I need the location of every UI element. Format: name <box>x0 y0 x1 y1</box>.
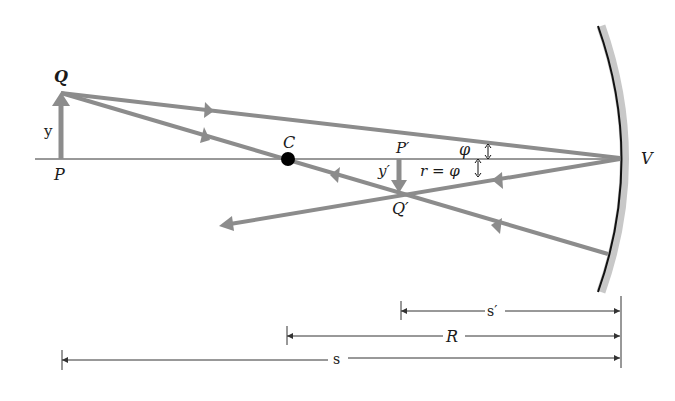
label-c: C <box>283 133 295 152</box>
label-p: P <box>53 165 65 184</box>
dimension-r: R <box>287 326 620 346</box>
label-s: s <box>333 351 340 367</box>
label-v: V <box>641 149 654 168</box>
label-q: Q <box>54 67 68 86</box>
label-r: R <box>445 327 458 346</box>
angle-marks <box>475 144 491 177</box>
label-phi: φ <box>459 140 471 159</box>
label-r-equals-phi: r = φ <box>420 162 460 180</box>
center-of-curvature-dot <box>281 152 295 166</box>
label-y-prime: y′ <box>377 162 390 180</box>
concave-mirror-diagram: Q y P C P′ y′ Q′ φ r = φ V s′ R s <box>0 0 675 401</box>
object-arrow <box>52 92 70 159</box>
label-q-prime: Q′ <box>392 199 409 218</box>
dimension-s-prime: s′ <box>401 301 620 320</box>
dimension-s: s <box>62 350 620 370</box>
label-p-prime: P′ <box>395 139 410 157</box>
label-s-prime: s′ <box>487 303 497 319</box>
image-arrow <box>391 159 407 193</box>
label-y: y <box>43 122 53 140</box>
ray-q-to-vertex <box>61 93 620 158</box>
